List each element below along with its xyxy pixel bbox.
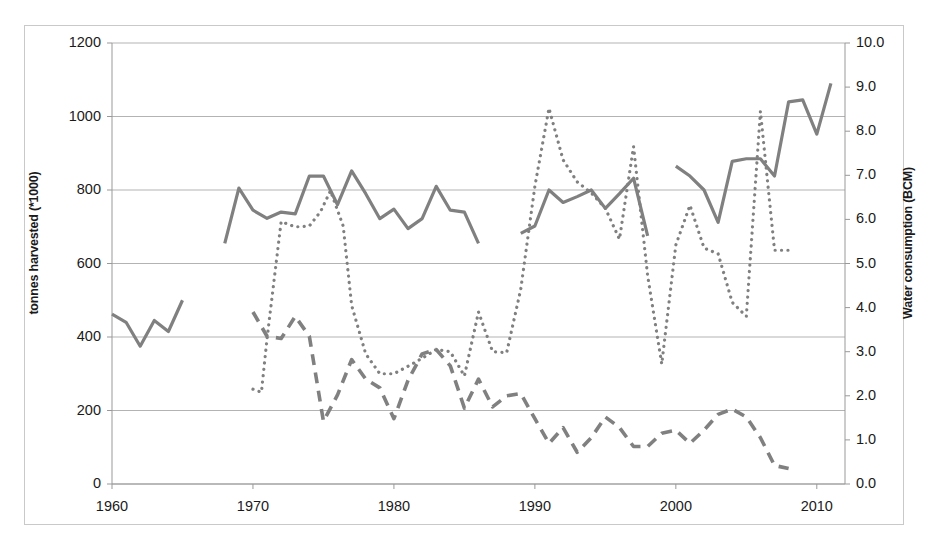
- right-tick-label: 3.0: [856, 343, 914, 359]
- bottom-tick-label: 2010: [782, 498, 852, 514]
- left-axis-title: tonnes harvested (*1000): [27, 143, 41, 343]
- right-tick-label: 4.0: [856, 299, 914, 315]
- series-water-consumption-dashed: [253, 312, 789, 469]
- series-tonnes-harvested-solid: [112, 300, 182, 346]
- tick-marks-group: [107, 43, 850, 489]
- series-water-consumption-dotted: [253, 108, 789, 392]
- chart-plot-area: [0, 0, 935, 548]
- right-tick-label: 1.0: [856, 431, 914, 447]
- bottom-tick-label: 2000: [641, 498, 711, 514]
- gridlines-group: [112, 43, 845, 484]
- left-tick-label: 0: [43, 475, 101, 491]
- left-tick-label: 200: [43, 402, 101, 418]
- bottom-tick-label: 1960: [77, 498, 147, 514]
- bottom-tick-label: 1990: [500, 498, 570, 514]
- chart-figure: tonnes harvested (*1000) Water consumpti…: [0, 0, 935, 548]
- right-tick-label: 7.0: [856, 166, 914, 182]
- left-tick-label: 1000: [43, 108, 101, 124]
- right-tick-label: 2.0: [856, 387, 914, 403]
- bottom-tick-label: 1980: [359, 498, 429, 514]
- left-tick-label: 800: [43, 181, 101, 197]
- right-tick-label: 10.0: [856, 34, 914, 50]
- left-tick-label: 600: [43, 255, 101, 271]
- left-tick-label: 1200: [43, 34, 101, 50]
- right-tick-label: 8.0: [856, 122, 914, 138]
- right-tick-label: 6.0: [856, 210, 914, 226]
- left-tick-label: 400: [43, 328, 101, 344]
- bottom-tick-label: 1970: [218, 498, 288, 514]
- right-tick-label: 9.0: [856, 78, 914, 94]
- right-tick-label: 0.0: [856, 475, 914, 491]
- series-tonnes-harvested-solid: [521, 178, 648, 236]
- series-tonnes-harvested-solid: [225, 171, 479, 243]
- right-tick-label: 5.0: [856, 255, 914, 271]
